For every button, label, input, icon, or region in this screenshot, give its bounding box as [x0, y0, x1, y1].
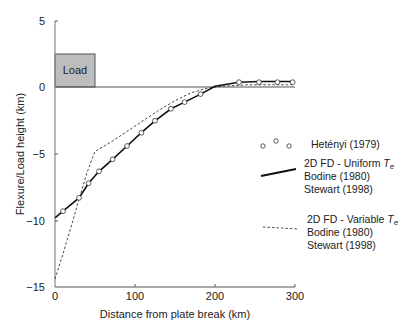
svg-text:−15: −15 [26, 281, 45, 293]
svg-text:Bodine (1980): Bodine (1980) [304, 170, 370, 182]
svg-text:300: 300 [286, 290, 304, 302]
svg-text:−5: −5 [32, 148, 45, 160]
legend-variable: 2D FD - Variable Te [307, 213, 399, 227]
y-ticks: 5 0 −5 −10 −15 [26, 15, 58, 293]
flexure-chart: Load 5 0 −5 −10 −15 0 100 200 300 Distan… [0, 0, 411, 336]
legend: Hetényi (1979) 2D FD - Uniform Te Bodine… [261, 138, 399, 251]
svg-text:Stewart (1998): Stewart (1998) [307, 239, 376, 251]
y-axis-label: Flexure/Load height (km) [14, 93, 26, 215]
legend-uniform: 2D FD - Uniform Te [304, 157, 395, 171]
svg-text:0: 0 [52, 290, 58, 302]
load-label: Load [63, 64, 87, 76]
svg-text:0: 0 [39, 81, 45, 93]
svg-text:100: 100 [126, 290, 144, 302]
svg-text:−10: −10 [26, 215, 45, 227]
svg-text:Stewart (1998): Stewart (1998) [304, 183, 373, 195]
svg-text:Bodine (1980): Bodine (1980) [307, 226, 373, 238]
legend-hetenyi: Hetényi (1979) [311, 138, 380, 150]
svg-text:200: 200 [206, 290, 224, 302]
x-axis-label: Distance from plate break (km) [100, 308, 250, 320]
svg-text:5: 5 [39, 15, 45, 27]
